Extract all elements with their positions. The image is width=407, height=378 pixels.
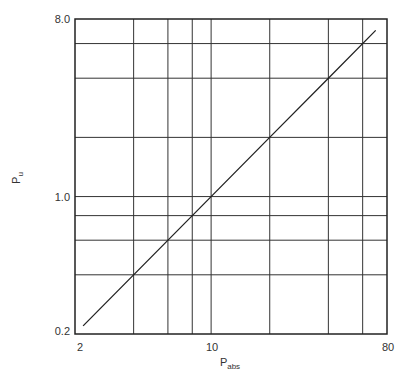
data-series-line [83, 30, 376, 326]
x-axis-label: Pabs [220, 356, 240, 371]
y-axis-label: Pu [10, 172, 25, 184]
x-tick-2: 2 [77, 341, 83, 353]
x-tick-80: 80 [382, 341, 394, 353]
x-tick-10: 10 [206, 341, 218, 353]
y-tick-0-2: 0.2 [55, 325, 70, 337]
y-tick-8: 8.0 [55, 13, 70, 25]
y-tick-1: 1.0 [55, 191, 70, 203]
log-log-chart: 8.0 1.0 0.2 2 10 80 Pabs Pu [0, 0, 407, 378]
